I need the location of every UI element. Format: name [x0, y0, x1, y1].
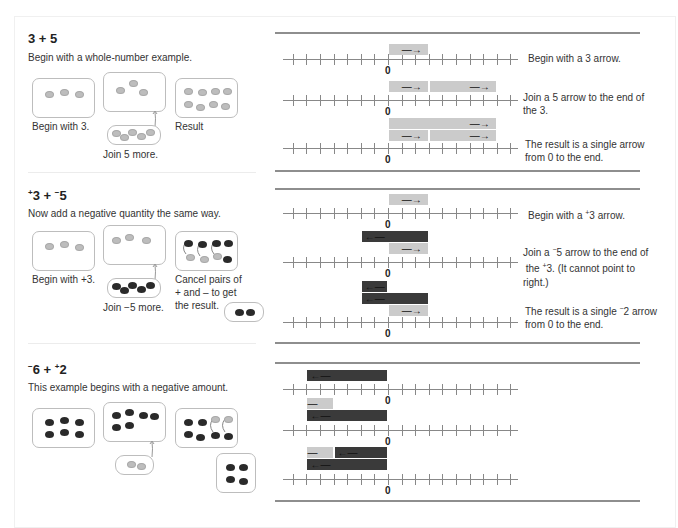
- note: The result is a single −2 arrow from 0 t…: [525, 302, 660, 331]
- tick-mark: [510, 384, 511, 395]
- negative-arrow: ←—: [362, 281, 387, 292]
- negative-arrow: ←—: [362, 293, 428, 304]
- arrow-right-icon: —→: [402, 44, 422, 55]
- tick-mark: [306, 54, 307, 65]
- tick-mark: [388, 384, 389, 395]
- tick-mark: [470, 317, 471, 328]
- tick-mark: [415, 317, 416, 328]
- tick-mark: [456, 384, 457, 395]
- tick-mark: [429, 317, 430, 328]
- tick-mark: [388, 208, 389, 219]
- arrow-right-icon: —→: [402, 81, 422, 92]
- positive-counter: [60, 241, 69, 248]
- tick-mark: [402, 317, 403, 328]
- zero-label: 0: [385, 485, 391, 496]
- tick-mark: [361, 317, 362, 328]
- rule: [275, 362, 640, 364]
- tick-mark: [334, 54, 335, 65]
- tick-mark: [334, 143, 335, 154]
- negative-counter: [246, 309, 255, 316]
- tick-mark: [374, 425, 375, 436]
- tick-mark: [320, 317, 321, 328]
- tick-mark: [306, 95, 307, 106]
- tick-mark: [374, 257, 375, 268]
- tick-mark: [497, 474, 498, 485]
- tick-mark: [320, 143, 321, 154]
- card-join-target: [103, 402, 166, 442]
- tick-mark: [470, 257, 471, 268]
- tick-mark: [334, 474, 335, 485]
- tick-mark: [374, 143, 375, 154]
- positive-arrow: —→: [389, 44, 428, 55]
- tick-mark: [347, 384, 348, 395]
- tick-mark: [510, 257, 511, 268]
- tick-mark: [429, 54, 430, 65]
- tick-mark: [429, 95, 430, 106]
- caption-begin: Begin with 3.: [32, 120, 89, 133]
- card-begin-3: [32, 78, 95, 118]
- arrow-left-icon: ←—: [365, 293, 385, 304]
- tick-mark: [347, 143, 348, 154]
- note: Join a −5 arrow to the end of the +3. (I…: [523, 243, 663, 289]
- tick-mark: [293, 95, 294, 106]
- caption-join: Join −5 more.: [103, 301, 164, 314]
- positive-arrow: —→: [389, 118, 496, 129]
- negative-counter: [212, 240, 221, 247]
- positive-arrow: —→: [389, 305, 428, 316]
- tick-mark: [510, 95, 511, 106]
- note: Join a 5 arrow to the end of the 3.: [523, 91, 653, 117]
- positive-counter: [198, 89, 207, 96]
- rule: [275, 170, 640, 172]
- tick-mark: [293, 384, 294, 395]
- tick-mark: [361, 425, 362, 436]
- negative-counter: [198, 241, 207, 248]
- arrow-left-icon: ←—: [310, 459, 330, 470]
- negative-arrow: ←—: [307, 370, 387, 381]
- tick-mark: [361, 143, 362, 154]
- tick-mark: [470, 474, 471, 485]
- number-line-axis: [283, 322, 518, 323]
- tick-mark: [442, 317, 443, 328]
- tick-mark: [442, 208, 443, 219]
- tick-mark: [497, 257, 498, 268]
- positive-counter: [142, 237, 151, 244]
- note: Begin with a +3 arrow.: [528, 206, 625, 222]
- tick-mark: [415, 95, 416, 106]
- positive-counter: [200, 256, 209, 263]
- positive-counter: [112, 237, 121, 244]
- tick-mark: [456, 143, 457, 154]
- positive-counter: [45, 243, 54, 250]
- tick-mark: [320, 54, 321, 65]
- cancel-link-icon: [176, 409, 237, 447]
- section-1-title: 3 + 5: [28, 31, 57, 46]
- tick-mark: [510, 208, 511, 219]
- tick-mark: [320, 474, 321, 485]
- number-line-axis: [283, 213, 518, 214]
- tick-mark: [347, 317, 348, 328]
- negative-arrow: ←—: [362, 231, 428, 242]
- positive-counter: [186, 254, 195, 261]
- tick-mark: [510, 317, 511, 328]
- tick-mark: [374, 317, 375, 328]
- card-cancel-pairs: [175, 408, 238, 448]
- tick-mark: [429, 474, 430, 485]
- caption-result: Result: [175, 120, 203, 133]
- positive-arrow: —→: [389, 243, 428, 254]
- tick-mark: [334, 425, 335, 436]
- positive-counter: [116, 87, 125, 94]
- card-begin-pos3: [32, 231, 95, 271]
- negative-counter: [112, 412, 121, 419]
- tick-mark: [483, 384, 484, 395]
- card-join-5: [107, 125, 161, 145]
- number-line-axis: [283, 100, 518, 101]
- tick-mark: [293, 54, 294, 65]
- number-line-axis: [283, 479, 518, 480]
- tick-mark: [402, 95, 403, 106]
- negative-arrow: ←—: [307, 410, 387, 421]
- number-line-axis: [283, 59, 518, 60]
- negative-counter: [211, 432, 220, 439]
- negative-counter: [60, 429, 69, 436]
- negative-counter: [75, 419, 84, 426]
- tick-mark: [483, 425, 484, 436]
- tick-mark: [483, 54, 484, 65]
